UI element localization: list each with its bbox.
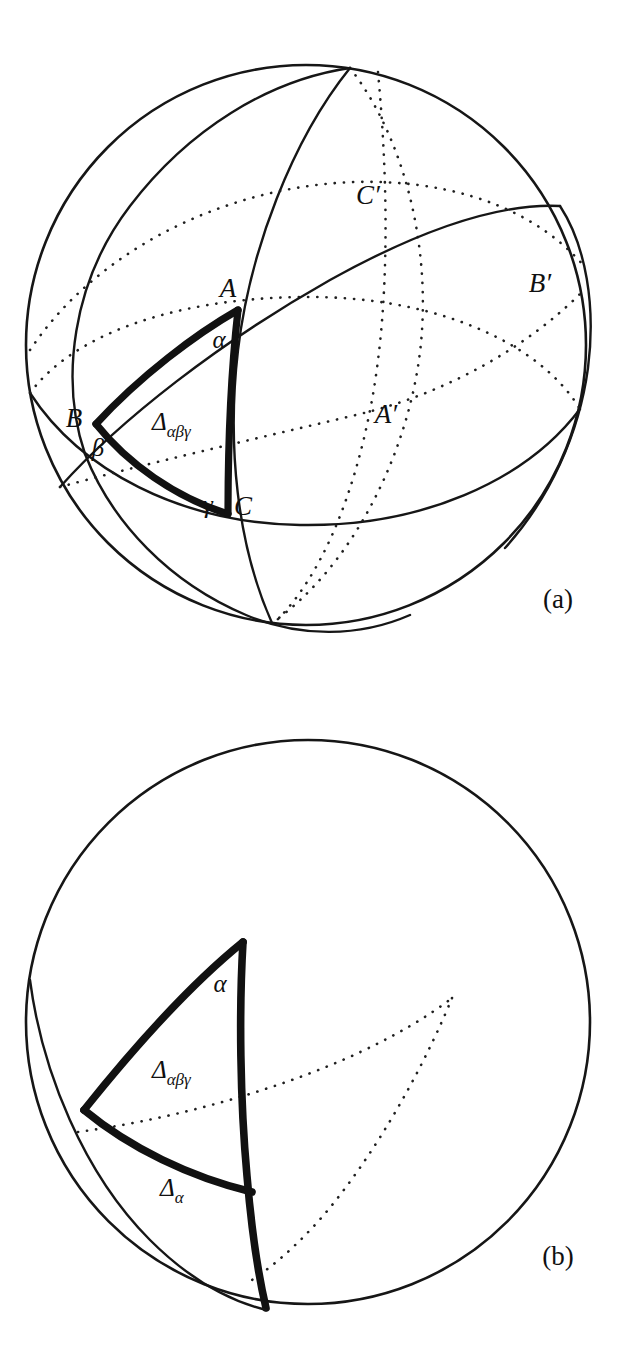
label-region-delta-alpha: Δα bbox=[159, 1174, 185, 1207]
panel-a: A B C α β γ A′ B′ C′ Δαβγ (a) bbox=[0, 0, 619, 680]
great-circle-oblique-right bbox=[505, 206, 591, 548]
panel-b-drawing: α Δαβγ Δα (b) bbox=[0, 680, 619, 1355]
triangle-edge-meridian bbox=[241, 942, 266, 1308]
panel-b: α Δαβγ Δα (b) bbox=[0, 680, 619, 1355]
triangle-edge-upper-left bbox=[84, 942, 243, 1110]
great-circle-meridian-back bbox=[272, 68, 423, 623]
label-region-delta-alpha-beta-gamma: Δαβγ bbox=[151, 1056, 192, 1089]
label-vertex-A: A bbox=[218, 273, 237, 303]
great-circle-dotted-vertical bbox=[272, 72, 386, 625]
label-antipode-A-prime: A′ bbox=[373, 399, 398, 429]
label-antipode-B-prime: B′ bbox=[529, 268, 552, 298]
figure-root: A B C α β γ A′ B′ C′ Δαβγ (a) bbox=[0, 0, 619, 1355]
delta-subscript: α bbox=[175, 1188, 185, 1207]
delta-glyph: Δ bbox=[151, 408, 167, 435]
label-angle-alpha: α bbox=[213, 970, 227, 997]
panel-b-caption: (b) bbox=[542, 1241, 573, 1271]
delta-glyph: Δ bbox=[159, 1174, 175, 1201]
label-vertex-C: C bbox=[234, 491, 253, 521]
label-region-delta-alpha-beta-gamma: Δαβγ bbox=[151, 408, 192, 441]
label-antipode-C-prime: C′ bbox=[356, 180, 381, 210]
label-angle-gamma: γ bbox=[203, 491, 214, 518]
sphere-outline bbox=[26, 65, 586, 625]
great-circle-third-upper bbox=[73, 68, 350, 454]
delta-glyph: Δ bbox=[151, 1056, 167, 1083]
hidden-arc-lune-back-upper bbox=[78, 998, 452, 1132]
delta-subscript: αβγ bbox=[167, 422, 192, 441]
panel-a-caption: (a) bbox=[543, 584, 573, 614]
label-vertex-B: B bbox=[66, 403, 83, 433]
great-circle-meridian-front bbox=[234, 68, 350, 623]
great-circle-third-lower bbox=[85, 454, 410, 632]
hidden-arc-lune-back-lower bbox=[252, 998, 452, 1280]
label-angle-beta: β bbox=[91, 434, 105, 461]
label-angle-alpha: α bbox=[212, 326, 226, 353]
great-circle-dotted-to-A-prime bbox=[60, 290, 584, 487]
sphere-outline bbox=[26, 740, 590, 1304]
panel-a-drawing: A B C α β γ A′ B′ C′ Δαβγ (a) bbox=[0, 0, 619, 680]
delta-subscript: αβγ bbox=[167, 1070, 192, 1089]
great-circle-equator-back bbox=[30, 297, 580, 409]
great-circle-dotted-top bbox=[30, 182, 584, 350]
